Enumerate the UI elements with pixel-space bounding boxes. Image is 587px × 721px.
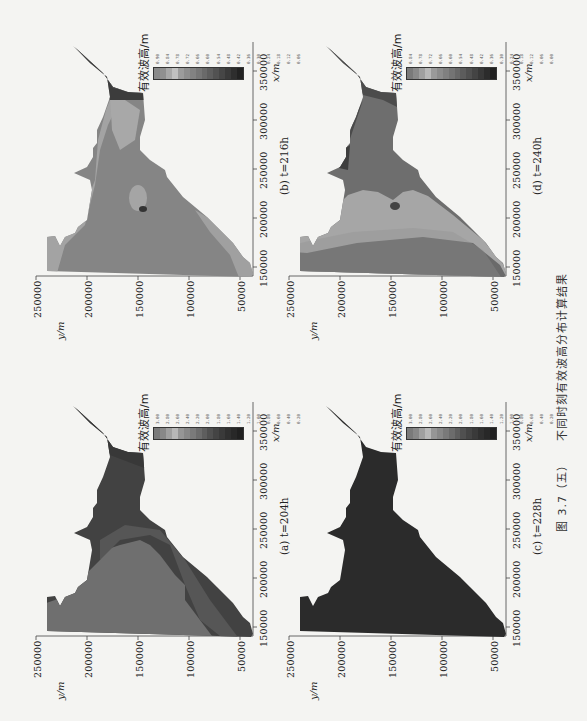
y-tick-200000: 200000 <box>83 641 94 678</box>
y-tick-50000: 50000 <box>489 641 500 672</box>
y-tick-150000: 150000 <box>134 641 145 678</box>
panel-label: (d) t=240h <box>531 137 543 195</box>
panel-b: 250000 200000 150000 100000 50000 y/m 15… <box>0 0 290 360</box>
panel-d: 250000 200000 150000 100000 50000 y/m 15… <box>253 0 543 360</box>
legend-title: 有效波高/m <box>388 394 404 452</box>
legend-colorbar <box>153 67 244 80</box>
x-tick-150000: 150000 <box>511 250 522 287</box>
panel-c: 250000 200000 150000 100000 50000 y/m 15… <box>253 360 543 720</box>
panel-a: 250000 200000 150000 100000 50000 y/m 15… <box>0 360 290 720</box>
y-axis-title: y/m <box>308 321 319 340</box>
y-tick-250000: 250000 <box>285 641 296 678</box>
legend-values: 0.84 0.78 0.72 0.66 0.60 0.54 0.48 0.42 … <box>406 49 495 64</box>
x-tick-300000: 300000 <box>511 463 522 500</box>
legend-values: 0.90 0.84 0.78 0.72 0.66 0.60 0.54 0.48 … <box>153 49 242 64</box>
legend-colorbar <box>406 67 497 80</box>
x-tick-250000: 250000 <box>511 512 522 549</box>
legend-values: 3.00 2.80 2.60 2.40 2.20 2.00 1.80 1.60 … <box>153 409 242 424</box>
y-axis-title: y/m <box>55 681 66 700</box>
x-tick-200000: 200000 <box>511 201 522 238</box>
x-tick-200000: 200000 <box>511 561 522 598</box>
y-tick-50000: 50000 <box>236 281 247 312</box>
x-axis-title: x/m <box>523 424 534 443</box>
x-tick-150000: 150000 <box>511 610 522 647</box>
y-tick-100000: 100000 <box>185 641 196 678</box>
y-tick-100000: 100000 <box>438 281 449 318</box>
y-axis-title: y/m <box>55 321 66 340</box>
y-tick-50000: 50000 <box>236 641 247 672</box>
y-tick-100000: 100000 <box>438 641 449 678</box>
figure-number: 图 3.7（五） <box>556 459 569 532</box>
figure-caption: 图 3.7（五） 不同时刻有效波高分布计算结果 <box>553 273 569 532</box>
legend-title: 有效波高/m <box>135 394 151 452</box>
y-tick-100000: 100000 <box>185 281 196 318</box>
y-axis-title: y/m <box>308 681 319 700</box>
legend-values: 3.00 2.80 2.60 2.40 2.20 2.00 1.80 1.60 … <box>406 409 495 424</box>
y-tick-150000: 150000 <box>387 641 398 678</box>
x-axis-title: x/m <box>523 64 534 83</box>
y-tick-150000: 150000 <box>387 281 398 318</box>
legend-colorbar <box>406 427 497 440</box>
y-tick-150000: 150000 <box>134 281 145 318</box>
y-tick-250000: 250000 <box>32 641 43 678</box>
y-tick-50000: 50000 <box>489 281 500 312</box>
panel-label: (c) t=228h <box>531 498 543 555</box>
y-tick-200000: 200000 <box>336 281 347 318</box>
legend-title: 有效波高/m <box>388 34 404 92</box>
y-tick-200000: 200000 <box>83 281 94 318</box>
legend-title: 有效波高/m <box>135 34 151 92</box>
figure-caption-text: 不同时刻有效波高分布计算结果 <box>556 273 569 441</box>
y-tick-200000: 200000 <box>336 641 347 678</box>
x-tick-250000: 250000 <box>511 152 522 189</box>
y-tick-250000: 250000 <box>285 281 296 318</box>
x-tick-300000: 300000 <box>511 103 522 140</box>
legend-colorbar <box>153 427 244 440</box>
y-tick-250000: 250000 <box>32 281 43 318</box>
